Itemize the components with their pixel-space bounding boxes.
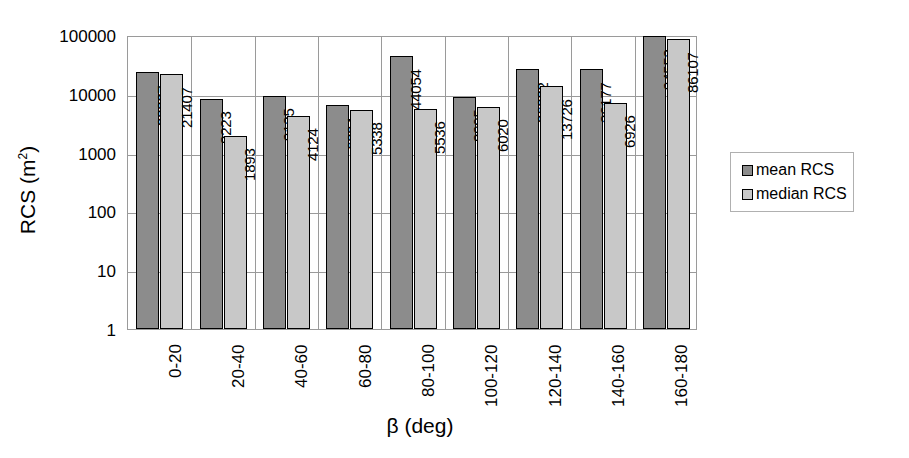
y-axis-tick-labels: 100000100001000100101 bbox=[0, 0, 122, 458]
legend-label-median-rcs: median RCS bbox=[756, 186, 847, 202]
chart-legend: mean RCS median RCS bbox=[730, 152, 854, 212]
bar-value-label: 5338 bbox=[369, 122, 384, 155]
y-tick-label: 1 bbox=[107, 322, 116, 339]
plot-area: 2332721407822318939125412463945338440545… bbox=[127, 36, 697, 330]
y-tick-label: 10 bbox=[97, 263, 116, 280]
x-tick-label: 120-140 bbox=[547, 344, 564, 406]
legend-label-mean-rcs: mean RCS bbox=[756, 162, 834, 178]
legend-item-mean-rcs: mean RCS bbox=[742, 162, 834, 178]
x-tick-label: 40-60 bbox=[293, 344, 310, 387]
x-tick-label: 20-40 bbox=[230, 344, 247, 387]
legend-swatch-median-rcs bbox=[742, 189, 753, 200]
y-tick-label: 10000 bbox=[69, 87, 116, 104]
bar-value-label: 1893 bbox=[242, 149, 257, 182]
x-axis-tick-labels: 0-2020-4040-6060-8080-100100-120120-1401… bbox=[127, 334, 697, 424]
gridline-vertical bbox=[571, 37, 572, 329]
gridline-vertical bbox=[318, 37, 319, 329]
bar-value-label: 6926 bbox=[622, 115, 637, 148]
bar-value-label: 6020 bbox=[495, 119, 510, 152]
bar-value-label: 5536 bbox=[432, 121, 447, 154]
legend-item-median-rcs: median RCS bbox=[742, 186, 847, 202]
gridline-vertical bbox=[381, 37, 382, 329]
legend-swatch-mean-rcs bbox=[742, 165, 753, 176]
x-tick-label: 160-180 bbox=[673, 344, 690, 406]
y-tick-label: 100000 bbox=[59, 28, 116, 45]
bar-value-label: 44054 bbox=[408, 69, 423, 110]
x-axis-title: β (deg) bbox=[340, 414, 500, 438]
bar-value-label: 86107 bbox=[685, 52, 700, 93]
gridline-vertical bbox=[508, 37, 509, 329]
y-tick-label: 100 bbox=[88, 204, 116, 221]
gridline-vertical bbox=[191, 37, 192, 329]
gridline-vertical bbox=[255, 37, 256, 329]
x-tick-label: 80-100 bbox=[420, 344, 437, 397]
rcs-bar-chart: RCS (m2) 100000100001000100101 233272140… bbox=[0, 0, 909, 458]
bar-value-label: 4124 bbox=[305, 129, 320, 162]
gridline-vertical bbox=[445, 37, 446, 329]
x-tick-label: 100-120 bbox=[483, 344, 500, 406]
x-tick-label: 140-160 bbox=[610, 344, 627, 406]
bar-value-label: 21407 bbox=[179, 88, 194, 129]
bar-value-label: 13726 bbox=[559, 99, 574, 140]
x-tick-label: 60-80 bbox=[357, 344, 374, 387]
y-tick-label: 1000 bbox=[78, 146, 116, 163]
x-tick-label: 0-20 bbox=[167, 344, 184, 378]
gridline-vertical bbox=[635, 37, 636, 329]
